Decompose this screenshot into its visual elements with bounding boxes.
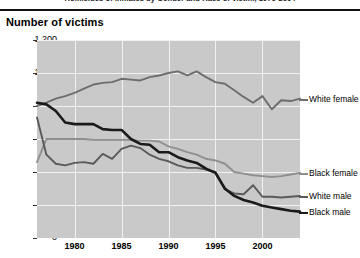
x-axis-tick-label: 1990 xyxy=(158,241,178,251)
legend-color-swatch xyxy=(299,212,308,214)
chart-page: Homicides of inmates by Gender and Race … xyxy=(0,0,360,258)
series-line-white-male xyxy=(37,118,300,198)
legend-label: White female xyxy=(309,94,359,105)
legend-label: Black male xyxy=(309,207,351,218)
y-axis-tick-mark xyxy=(33,238,37,239)
plot-area xyxy=(37,40,300,238)
page-title: Homicides of inmates by Gender and Race … xyxy=(64,0,295,3)
x-axis-tick-label: 1995 xyxy=(205,241,225,251)
legend-color-swatch xyxy=(299,99,308,101)
series-lines xyxy=(37,40,300,238)
legend-color-swatch xyxy=(299,173,308,175)
y-axis-title: Number of victims xyxy=(6,16,104,28)
legend-label: Black female xyxy=(309,168,358,179)
legend-label: White male xyxy=(309,191,352,202)
series-line-white-female xyxy=(37,71,300,109)
x-axis-tick-label: 2000 xyxy=(252,241,272,251)
x-axis-tick-label: 1985 xyxy=(112,241,132,251)
series-line-black-female xyxy=(37,139,300,177)
legend-color-swatch xyxy=(299,196,308,198)
report-title-band: Homicides of inmates by Gender and Race … xyxy=(0,0,360,9)
x-axis-tick-label: 1980 xyxy=(65,241,85,251)
title-divider xyxy=(0,9,360,11)
